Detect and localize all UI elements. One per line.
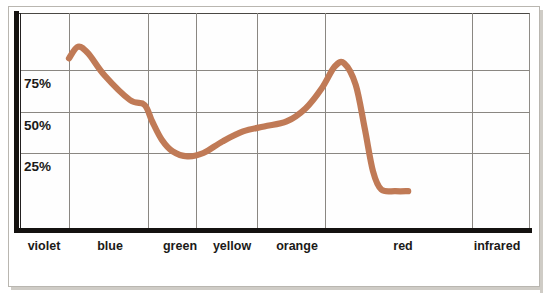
curve-layer xyxy=(0,0,549,297)
reflectance-curve xyxy=(69,47,408,192)
spectral-reflectance-chart: 75% 50% 25% violet blue green yellow ora… xyxy=(0,0,549,297)
